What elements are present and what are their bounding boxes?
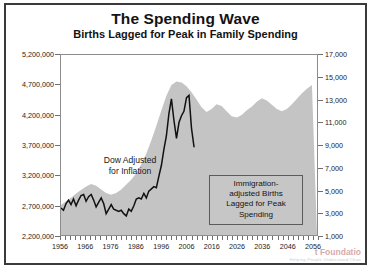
- x-axis-tick-label: 1966: [77, 242, 93, 251]
- x-axis-tick: [161, 236, 162, 240]
- x-axis-tick: [308, 236, 309, 240]
- x-axis-tick: [65, 236, 66, 240]
- x-axis-tick: [257, 236, 258, 240]
- births-annotation-box: Immigration- adjusted Births Lagged for …: [209, 175, 303, 225]
- x-axis-tick: [95, 236, 96, 240]
- x-axis-tick: [60, 236, 61, 240]
- x-axis-tick: [313, 236, 314, 240]
- left-axis-tick: [55, 175, 60, 176]
- x-axis-tick: [202, 236, 203, 240]
- x-axis-tick: [247, 236, 248, 240]
- x-axis-tick: [75, 236, 76, 240]
- right-axis-tick: [318, 100, 323, 101]
- births-annotation-line1: Immigration-: [211, 179, 301, 189]
- page-title: The Spending Wave: [6, 10, 365, 27]
- x-axis-tick: [100, 236, 101, 240]
- title-block: The Spending Wave Births Lagged for Peak…: [6, 10, 365, 41]
- x-axis-tick: [156, 236, 157, 240]
- page-subtitle: Births Lagged for Peak in Family Spendin…: [6, 28, 365, 41]
- left-axis-tick: [55, 84, 60, 85]
- x-axis-tick: [272, 236, 273, 240]
- x-axis-tick: [283, 236, 284, 240]
- right-axis-tick: [318, 168, 323, 169]
- dow-annotation-line1: Dow Adjusted: [84, 155, 176, 166]
- x-axis-tick: [181, 236, 182, 240]
- x-axis-tick-label: 2026: [229, 242, 245, 251]
- x-axis-tick: [166, 236, 167, 240]
- left-axis-tick: [55, 115, 60, 116]
- watermark-title: t Foundatio: [290, 248, 361, 257]
- x-axis-tick: [85, 236, 86, 240]
- births-annotation-line3: Lagged for Peak: [211, 199, 301, 209]
- x-axis-tick-label: 1996: [153, 242, 169, 251]
- right-axis-tick-label: 9,000: [325, 141, 343, 150]
- left-axis-tick: [55, 54, 60, 55]
- x-axis-tick: [131, 236, 132, 240]
- x-axis-tick-label: 2046: [280, 242, 296, 251]
- right-axis-tick-label: 5,000: [325, 186, 343, 195]
- x-axis-tick: [303, 236, 304, 240]
- x-axis-tick: [237, 236, 238, 240]
- x-axis-tick-label: 1986: [128, 242, 144, 251]
- right-axis-tick-label: 7,000: [325, 163, 343, 172]
- x-axis-tick-label: 2006: [178, 242, 194, 251]
- x-axis-tick-label: 1956: [52, 242, 68, 251]
- x-axis-tick: [252, 236, 253, 240]
- x-axis-tick: [278, 236, 279, 240]
- x-axis-tick: [126, 236, 127, 240]
- left-axis-tick: [55, 145, 60, 146]
- left-axis-tick-label: 3,700,000: [22, 141, 54, 150]
- foundation-watermark: t Foundatio Helping People Understand Ch…: [290, 248, 361, 262]
- x-axis-tick: [111, 236, 112, 240]
- left-axis-tick-label: 2,700,000: [22, 201, 54, 210]
- left-axis-tick-label: 4,200,000: [22, 110, 54, 119]
- watermark-tagline: Helping People Understand Chan: [290, 257, 361, 262]
- x-axis-tick: [176, 236, 177, 240]
- right-axis-tick-label: 15,000: [325, 72, 347, 81]
- births-annotation-line2: adjusted Births: [211, 189, 301, 199]
- x-axis-tick-label: 1976: [103, 242, 119, 251]
- x-axis-tick: [298, 236, 299, 240]
- x-axis-tick: [80, 236, 81, 240]
- x-axis-tick: [227, 236, 228, 240]
- x-axis-tick: [90, 236, 91, 240]
- x-axis-tick: [222, 236, 223, 240]
- x-axis-tick: [293, 236, 294, 240]
- left-axis-tick-label: 3,200,000: [22, 171, 54, 180]
- x-axis-tick: [70, 236, 71, 240]
- x-axis-tick: [242, 236, 243, 240]
- left-axis-tick-label: 4,700,000: [22, 80, 54, 89]
- x-axis-tick: [121, 236, 122, 240]
- left-axis-tick: [55, 206, 60, 207]
- births-annotation-line4: Spending: [211, 210, 301, 220]
- x-axis-tick: [262, 236, 263, 240]
- x-axis-tick: [232, 236, 233, 240]
- right-axis-tick-label: 13,000: [325, 95, 347, 104]
- x-axis-tick: [106, 236, 107, 240]
- x-axis-tick: [186, 236, 187, 240]
- x-axis-tick: [146, 236, 147, 240]
- x-axis-tick: [151, 236, 152, 240]
- left-axis-tick-label: 2,200,000: [22, 232, 54, 241]
- x-axis-tick: [192, 236, 193, 240]
- right-axis-tick: [318, 54, 323, 55]
- x-axis-tick-label: 2056: [305, 242, 321, 251]
- x-axis-tick: [116, 236, 117, 240]
- x-axis-tick-label: 2036: [254, 242, 270, 251]
- right-axis-tick: [318, 122, 323, 123]
- x-axis-tick: [267, 236, 268, 240]
- x-axis-tick: [318, 236, 319, 240]
- right-axis-tick-label: 1,000: [325, 232, 343, 241]
- x-axis-tick: [141, 236, 142, 240]
- right-axis-tick-label: 11,000: [325, 118, 346, 127]
- dow-annotation-line2: for Inflation: [84, 166, 176, 177]
- dow-annotation: Dow Adjusted for Inflation: [84, 155, 176, 176]
- x-axis-tick: [207, 236, 208, 240]
- right-axis-tick: [318, 213, 323, 214]
- left-axis-tick-label: 5,200,000: [22, 50, 54, 59]
- x-axis-tick: [212, 236, 213, 240]
- right-axis-tick: [318, 191, 323, 192]
- x-axis-tick: [288, 236, 289, 240]
- x-axis-tick: [217, 236, 218, 240]
- right-axis-tick: [318, 145, 323, 146]
